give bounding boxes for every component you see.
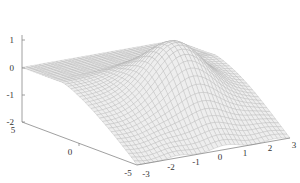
z-tick-label: 1 (10, 35, 15, 45)
x-tick-label: 3 (292, 140, 297, 150)
x-tick-label: -2 (167, 162, 175, 172)
y-tick-label: -5 (124, 168, 132, 178)
x-tick-label: 1 (243, 148, 248, 158)
surface-plot: 1 0 -1 -2 5 0 -5 -3 -2 -1 0 1 2 3 (0, 0, 300, 183)
x-tick-label: -3 (142, 169, 150, 179)
y-tick-label: 0 (68, 147, 73, 157)
x-tick-label: -1 (192, 157, 200, 167)
z-tick-label: -1 (7, 90, 15, 100)
x-tick-label: 2 (268, 143, 273, 153)
z-tick-label: 0 (10, 63, 15, 73)
y-tick-label: 5 (11, 125, 16, 135)
surface-mesh (22, 40, 290, 164)
x-tick-label: 0 (218, 152, 223, 162)
